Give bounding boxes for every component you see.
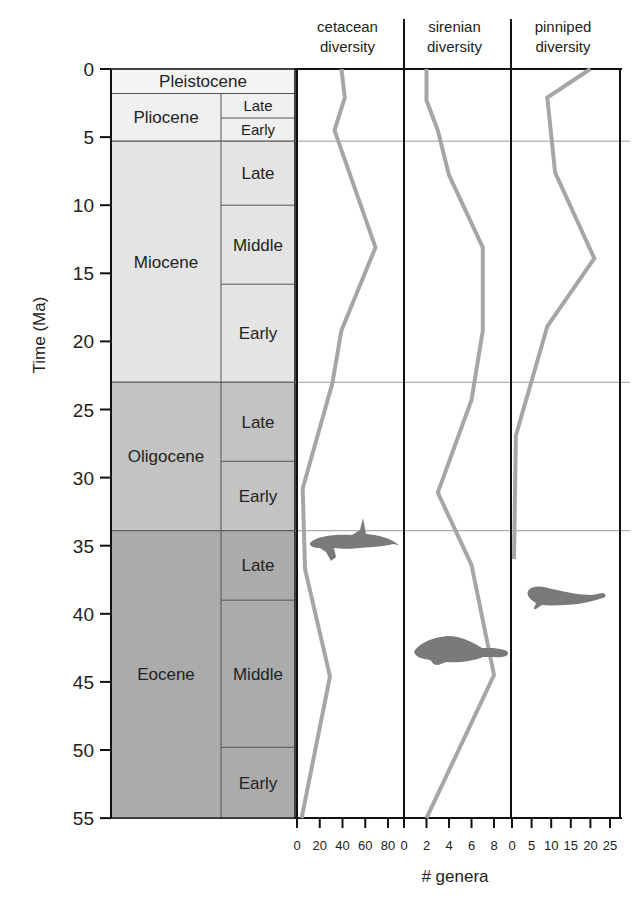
subdivision-label: Middle: [233, 665, 283, 684]
y-tick-label: 0: [83, 59, 94, 80]
diversity-chart: PleistocenePlioceneLateEarlyMioceneLateM…: [0, 0, 642, 904]
x-tick-label: 25: [603, 838, 617, 853]
x-tick-label: 20: [313, 838, 327, 853]
diversity-curve-pinniped: [514, 69, 594, 559]
x-tick-label: 0: [400, 838, 407, 853]
y-tick-label: 50: [73, 740, 94, 761]
x-tick-label: 10: [544, 838, 558, 853]
x-tick-label: 60: [358, 838, 372, 853]
panel-header-2-line2: diversity: [535, 38, 591, 55]
y-tick-label: 10: [73, 195, 94, 216]
epoch-label-eocene: Eocene: [137, 665, 195, 684]
y-tick-label: 20: [73, 331, 94, 352]
diversity-panels: cetaceandiversity020406080sireniandivers…: [293, 18, 630, 853]
x-axis-label: # genera: [421, 867, 489, 886]
panel-header-0-line2: diversity: [320, 38, 376, 55]
y-tick-label: 35: [73, 536, 94, 557]
manatee-silhouette-icon: [414, 636, 508, 665]
subdivision-label: Middle: [233, 236, 283, 255]
x-tick-label: 4: [445, 838, 452, 853]
time-axis: 0510152025303540455055: [73, 59, 111, 829]
panel-header-1-line1: sirenian: [428, 18, 481, 35]
epoch-label-miocene: Miocene: [134, 253, 198, 272]
y-axis-label: Time (Ma): [30, 297, 49, 374]
diversity-curve-sirenian: [427, 69, 495, 818]
x-tick-label: 0: [293, 838, 300, 853]
panel-header-1-line2: diversity: [427, 38, 483, 55]
seal-silhouette-icon: [528, 587, 606, 610]
x-tick-label: 80: [381, 838, 395, 853]
subdivision-label: Early: [241, 121, 276, 138]
x-tick-label: 15: [564, 838, 578, 853]
x-tick-label: 0: [508, 838, 515, 853]
y-tick-label: 5: [83, 127, 94, 148]
y-tick-label: 25: [73, 400, 94, 421]
epoch-label-oligocene: Oligocene: [128, 447, 205, 466]
x-tick-label: 6: [468, 838, 475, 853]
subdivision-label: Late: [243, 97, 272, 114]
panel-header-2-line1: pinniped: [535, 18, 592, 35]
subdivision-label: Late: [241, 164, 274, 183]
whale-silhouette-icon: [310, 518, 399, 561]
x-tick-label: 20: [583, 838, 597, 853]
y-tick-label: 45: [73, 672, 94, 693]
silhouettes: [310, 518, 606, 665]
epoch-label-pleistocene: Pleistocene: [159, 72, 247, 91]
subdivision-label: Early: [239, 324, 278, 343]
subdivision-label: Early: [239, 774, 278, 793]
y-tick-label: 15: [73, 263, 94, 284]
subdivision-label: Late: [241, 413, 274, 432]
epoch-label-pliocene: Pliocene: [133, 108, 198, 127]
x-tick-label: 5: [528, 838, 535, 853]
panel-header-0-line1: cetacean: [317, 18, 378, 35]
stratigraphic-column: PleistocenePlioceneLateEarlyMioceneLateM…: [111, 69, 295, 818]
subdivision-label: Early: [239, 487, 278, 506]
subdivision-label: Late: [241, 556, 274, 575]
x-tick-label: 2: [423, 838, 430, 853]
diversity-curve-cetacean: [302, 69, 376, 818]
y-tick-label: 30: [73, 468, 94, 489]
y-tick-label: 55: [73, 808, 94, 829]
x-tick-label: 40: [335, 838, 349, 853]
x-tick-label: 8: [490, 838, 497, 853]
y-tick-label: 40: [73, 604, 94, 625]
